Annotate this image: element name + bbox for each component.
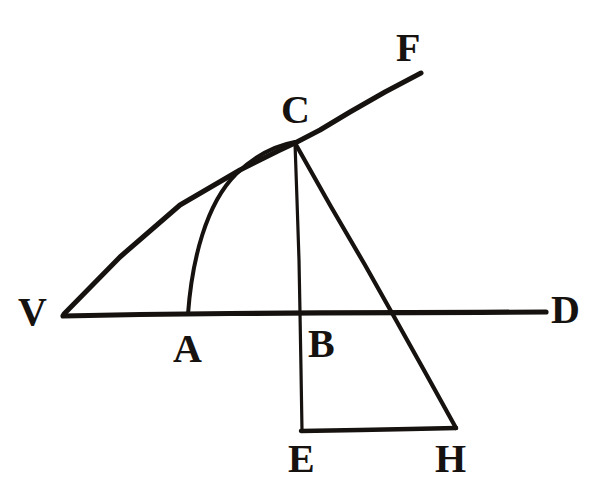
- line-c-to-h: [295, 143, 456, 428]
- point-label-h: H: [435, 439, 466, 479]
- point-label-a: A: [173, 329, 202, 369]
- line-c-to-f: [295, 73, 421, 143]
- point-label-e: E: [288, 439, 315, 479]
- figure-canvas: V C F D A B E H: [0, 0, 592, 497]
- point-label-f: F: [396, 28, 420, 68]
- curve-a-to-c: [188, 142, 295, 314]
- diagram-svg: [0, 0, 592, 497]
- point-label-c: C: [281, 90, 310, 130]
- line-v-to-c: [64, 143, 295, 314]
- point-label-d: D: [551, 290, 580, 330]
- segment-e-to-h: [301, 428, 456, 431]
- point-label-b: B: [308, 324, 335, 364]
- line-c-to-e: [295, 143, 302, 431]
- point-label-v: V: [18, 292, 47, 332]
